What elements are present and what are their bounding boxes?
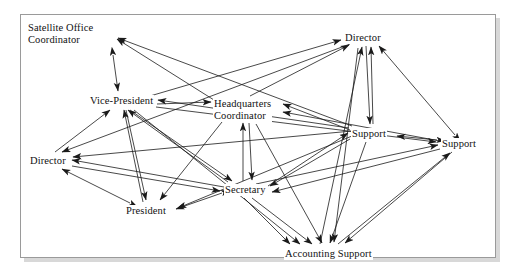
- node-label-support_mid: Support: [351, 128, 387, 140]
- edge-support_mid-to-headquarters_coordinator: [283, 104, 350, 130]
- edge-vice_president-to-president: [126, 110, 146, 200]
- node-label-accounting_support: Accounting Support: [284, 248, 373, 260]
- edge-vice_president-to-support_right: [156, 107, 436, 142]
- edge-headquarters_coordinator-to-satellite_office_coordinator: [117, 39, 214, 100]
- node-label-director_top: Director: [344, 32, 382, 44]
- node-label-headquarters_coordinator: Headquarters Coordinator: [213, 98, 272, 122]
- network-diagram-figure: Satellite Office CoordinatorVice-Preside…: [0, 0, 510, 274]
- node-label-satellite_office_coordinator: Satellite Office Coordinator: [27, 22, 94, 46]
- edge-secretary-to-president: [176, 193, 222, 209]
- edge-director_left-to-vice_president: [55, 110, 110, 152]
- edge-support_right-to-accounting_support: [345, 152, 452, 243]
- edge-headquarters_coordinator-to-secretary: [249, 123, 252, 180]
- edge-director_top-to-support_mid: [366, 46, 370, 124]
- edge-headquarters_coordinator-to-director_top: [250, 45, 349, 96]
- edge-director_top-to-accounting_support: [334, 48, 358, 242]
- edge-director_left-to-secretary: [72, 166, 220, 191]
- edge-secretary-to-support_mid: [268, 133, 348, 186]
- edge-support_mid-to-director_top: [371, 47, 373, 124]
- edge-headquarters_coordinator-to-president: [160, 122, 222, 200]
- edge-support_right-to-director_top: [379, 46, 455, 135]
- edge-accounting_support-to-director_top: [320, 47, 362, 244]
- node-label-vice_president: Vice-President: [89, 95, 154, 107]
- edge-vice_president-to-director_top: [150, 40, 341, 96]
- edge-support_mid-to-president: [178, 136, 352, 208]
- edge-vice_president-to-satellite_office_coordinator: [113, 55, 118, 91]
- node-label-director_left: Director: [29, 155, 67, 167]
- node-label-secretary: Secretary: [224, 184, 267, 196]
- edge-president-to-vice_president: [124, 110, 143, 202]
- edge-secretary-to-accounting_support_b: [252, 198, 312, 244]
- edge-group: [55, 38, 455, 244]
- edge-vice_president-to-accounting_support: [134, 110, 300, 244]
- edge-accounting_support-to-support_right: [338, 153, 450, 244]
- node-label-support_right: Support: [441, 138, 477, 150]
- node-label-president: President: [125, 205, 167, 217]
- edge-support_mid-to-secretary: [270, 139, 350, 186]
- edge-secretary-to-accounting_support: [244, 198, 290, 244]
